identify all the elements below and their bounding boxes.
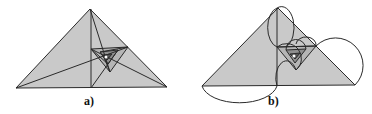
- figure-a: [16, 9, 167, 88]
- diagram-canvas: [0, 0, 372, 114]
- figure-b-label: b): [268, 94, 279, 109]
- figure-b: [202, 7, 363, 103]
- figure-a-label: a): [84, 94, 94, 109]
